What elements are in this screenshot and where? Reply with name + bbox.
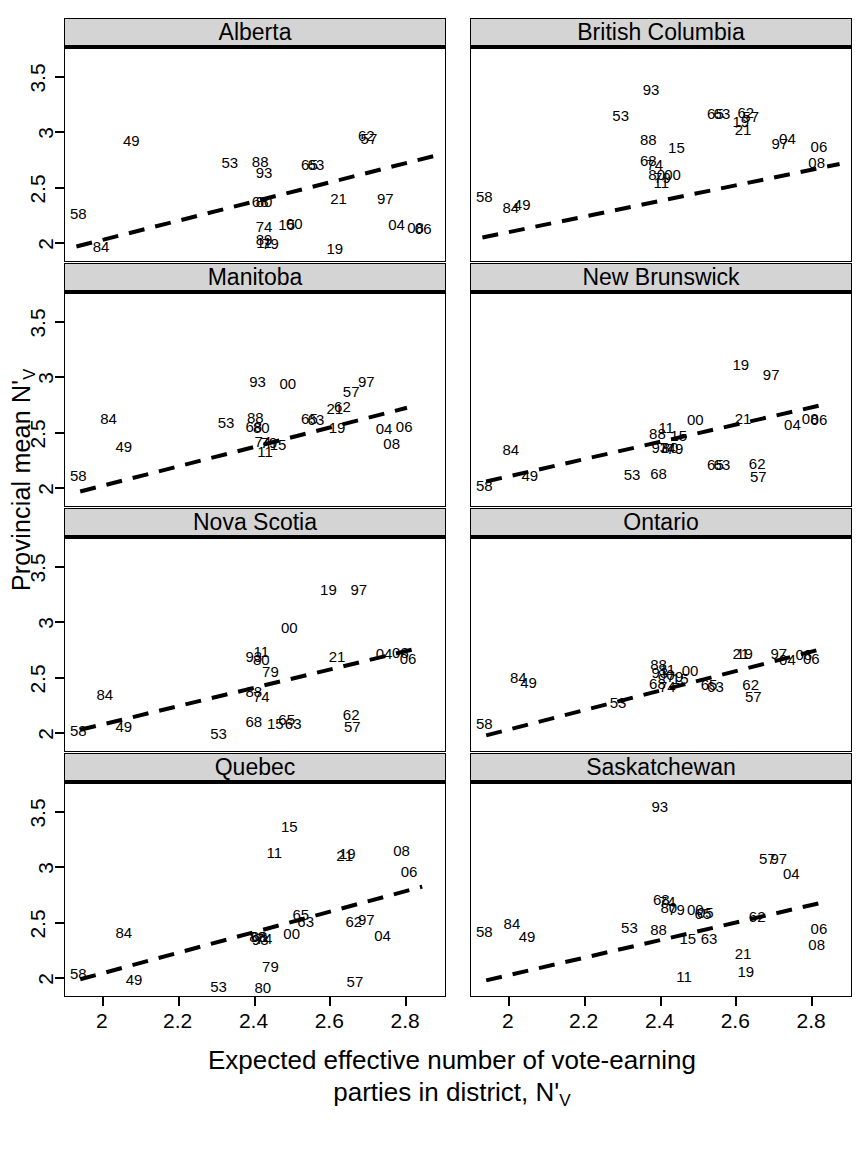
plot-area: 5884495388689374807911150065632119625797… [64,783,446,997]
y-tick-label: 2 [40,967,52,991]
data-point-label: 15 [281,819,298,834]
data-point-label: 04 [374,928,391,943]
plot-area: 5884495393118079887468156563001921625797… [64,538,446,752]
data-point-label: 06 [811,138,828,153]
panel-quebec: Quebec5884495388689374807911150065632119… [64,753,446,997]
y-tick-mark [55,432,64,434]
data-point-label: 53 [610,695,627,710]
data-point-label: 74 [253,688,270,703]
data-point-label: 80 [254,980,271,995]
panel-new-brunswick: New Brunswick588449536888119374807915006… [470,263,852,507]
panel-title-text: Alberta [219,21,292,44]
data-point-label: 58 [476,188,493,203]
data-point-label: 63 [285,716,302,731]
panel-strip-label: Nova Scotia [64,508,446,538]
data-point-label: 21 [330,190,347,205]
y-tick-mark [55,677,64,679]
panel-alberta: Alberta588449538893688074891179150065631… [64,18,446,262]
data-point-label: 62 [749,909,766,924]
x-tick-label: 2.8 [390,1009,419,1033]
data-point-label: 19 [320,581,337,596]
data-point-label: 08 [808,936,825,951]
data-point-label: 15 [668,139,685,154]
y-tick-label: 3 [40,856,52,880]
data-point-label: 19 [327,240,344,255]
data-point-label: 19 [737,963,754,978]
x-tick-label: 2 [96,1009,108,1033]
data-point-label: 88 [640,131,657,146]
y-tick-mark [55,922,64,924]
data-point-label: 00 [286,216,303,231]
data-point-label: 84 [96,687,113,702]
y-tick-label: 2.5 [23,422,52,446]
x-tick-label: 2.8 [796,1009,825,1033]
data-point-label: 06 [401,863,418,878]
data-point-label: 06 [396,419,413,434]
y-axis-ticks: 22.533.5 [50,783,64,994]
panel-strip-label: Saskatchewan [470,753,852,783]
data-point-label: 53 [624,466,641,481]
data-point-label: 68 [650,465,667,480]
panel-british-columbia: British Columbia588449539388687480791100… [470,18,852,262]
x-tick-mark [405,997,407,1006]
y-tick-label: 3 [40,611,52,635]
data-point-label: 04 [376,646,393,661]
x-axis-ticks: 22.22.42.62.8 [64,997,443,1037]
panel-strip-label: Quebec [64,753,446,783]
data-point-label: 53 [612,107,629,122]
data-point-label: 93 [256,165,273,180]
x-tick-label: 2.6 [721,1009,750,1033]
panel-title-text: Quebec [215,756,296,779]
x-tick-mark [811,997,813,1006]
data-point-label: 84 [115,924,132,939]
panel-strip-label: Manitoba [64,263,446,293]
panel-ontario: Ontario588449538893118074687915006563211… [470,508,852,752]
data-point-label: 79 [668,902,685,917]
plot-area: 5884495388936880748911791500656319216257… [64,48,446,262]
x-axis-title-line2: parties in district, N [333,1077,554,1107]
data-point-label: 63 [308,412,325,427]
x-tick-mark [329,997,331,1006]
y-tick-label: 2.5 [23,667,52,691]
data-point-label: 53 [218,414,235,429]
y-tick-mark [55,76,64,78]
data-point-label: 06 [811,412,828,427]
panel-grid: Alberta588449538893688074891179150065631… [46,18,858,963]
data-point-label: 58 [476,478,493,493]
data-point-label: 21 [735,945,752,960]
x-tick-mark [102,997,104,1006]
data-point-label: 93 [249,373,266,388]
x-axis-title-subscript: V [559,1090,570,1110]
x-tick-mark [584,997,586,1006]
data-point-label: 93 [651,799,668,814]
data-point-label: 19 [339,845,356,860]
plot-area: 5884495388931180746879150065632119625797… [470,538,852,752]
data-point-label: 00 [687,412,704,427]
data-point-label: 88 [650,922,667,937]
data-point-label: 08 [808,155,825,170]
y-tick-label: 3.5 [23,311,52,335]
data-point-label: 49 [115,439,132,454]
data-point-label: 04 [783,865,800,880]
panel-strip-label: British Columbia [470,18,852,48]
y-tick-label: 2.5 [23,177,52,201]
y-tick-mark [55,811,64,813]
data-point-label: 58 [70,723,87,738]
panel-title-text: Manitoba [208,266,303,289]
panel-title-text: Ontario [623,511,698,534]
data-point-label: 00 [281,619,298,634]
panel-nova-scotia: Nova Scotia58844953931180798874681565630… [64,508,446,752]
data-point-label: 58 [476,923,493,938]
y-tick-mark [55,321,64,323]
panel-title-text: New Brunswick [582,266,739,289]
y-axis-title-prime: ' [7,380,35,385]
data-point-label: 04 [388,217,405,232]
data-point-label: 49 [520,675,537,690]
plot-area: 5884495368881193748079150065631921625797… [470,293,852,507]
data-point-label: 53 [210,726,227,741]
trend-line [65,294,445,506]
data-point-label: 58 [70,468,87,483]
data-point-label: 97 [763,366,780,381]
data-point-label: 84 [502,442,519,457]
data-point-label: 00 [682,663,699,678]
